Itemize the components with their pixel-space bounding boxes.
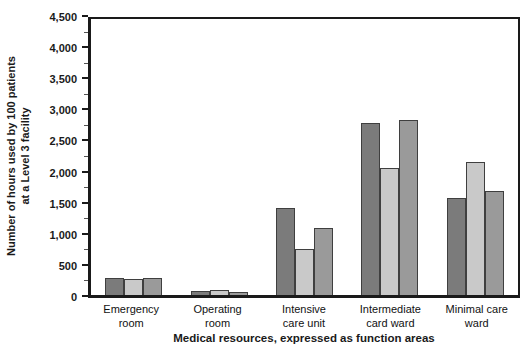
bar-mco-2 xyxy=(191,291,210,295)
bar-oif-5 xyxy=(466,162,485,295)
plot-area: MCOOIFHUMRO xyxy=(88,17,520,298)
bar-humro-3 xyxy=(314,228,333,295)
bar-humro-5 xyxy=(485,191,504,295)
y-tick-label: 3,000 xyxy=(49,104,77,116)
y-tick-label: 1,500 xyxy=(49,198,77,210)
bar-group-3 xyxy=(276,19,333,295)
bar-group-1 xyxy=(105,19,162,295)
bar-mco-1 xyxy=(105,278,124,295)
x-category-label-line: room xyxy=(175,317,261,331)
y-axis-ticks: 05001,0001,5002,0002,5003,0003,5004,0004… xyxy=(0,17,88,297)
bar-mco-4 xyxy=(361,123,380,295)
y-tick-label: 500 xyxy=(59,260,77,272)
x-category-label-3: Intensivecare unit xyxy=(261,303,347,331)
x-axis-category-labels: EmergencyroomOperatingroomIntensivecare … xyxy=(88,303,520,331)
y-tick-label: 2,500 xyxy=(49,135,77,147)
y-tick-label: 3,500 xyxy=(49,73,77,85)
x-category-label-line: card ward xyxy=(347,317,433,331)
x-category-label-line: room xyxy=(88,317,174,331)
bar-humro-4 xyxy=(399,120,418,295)
bar-chart: Number of hours used by 100 patients at … xyxy=(0,0,528,355)
bar-oif-4 xyxy=(380,168,399,295)
bar-group-5 xyxy=(447,19,504,295)
x-category-label-line: Minimal care xyxy=(434,303,520,317)
bar-oif-2 xyxy=(210,290,229,295)
y-tick-label: 1,000 xyxy=(49,229,77,241)
x-category-label-line: Emergency xyxy=(88,303,174,317)
bar-oif-1 xyxy=(124,279,143,295)
x-category-label-4: Intermediatecard ward xyxy=(347,303,433,331)
x-category-label-line: care unit xyxy=(261,317,347,331)
x-category-label-1: Emergencyroom xyxy=(88,303,174,331)
y-tick-label: 4,500 xyxy=(49,11,77,23)
x-category-label-line: ward xyxy=(434,317,520,331)
bar-oif-3 xyxy=(295,249,314,295)
x-category-label-line: Intensive xyxy=(261,303,347,317)
bar-mco-3 xyxy=(276,208,295,295)
bar-mco-5 xyxy=(447,198,466,295)
y-tick-label: 4,000 xyxy=(49,42,77,54)
x-category-label-5: Minimal careward xyxy=(434,303,520,331)
bar-group-4 xyxy=(361,19,418,295)
bar-groups xyxy=(91,19,518,295)
y-tick-label: 0 xyxy=(71,291,77,303)
x-category-label-line: Intermediate xyxy=(347,303,433,317)
x-axis-title: Medical resources, expressed as function… xyxy=(173,332,434,344)
bar-group-2 xyxy=(191,19,248,295)
x-category-label-line: Operating xyxy=(175,303,261,317)
y-tick-label: 2,000 xyxy=(49,167,77,179)
x-category-label-2: Operatingroom xyxy=(175,303,261,331)
bar-humro-2 xyxy=(229,292,248,295)
bar-humro-1 xyxy=(143,278,162,295)
